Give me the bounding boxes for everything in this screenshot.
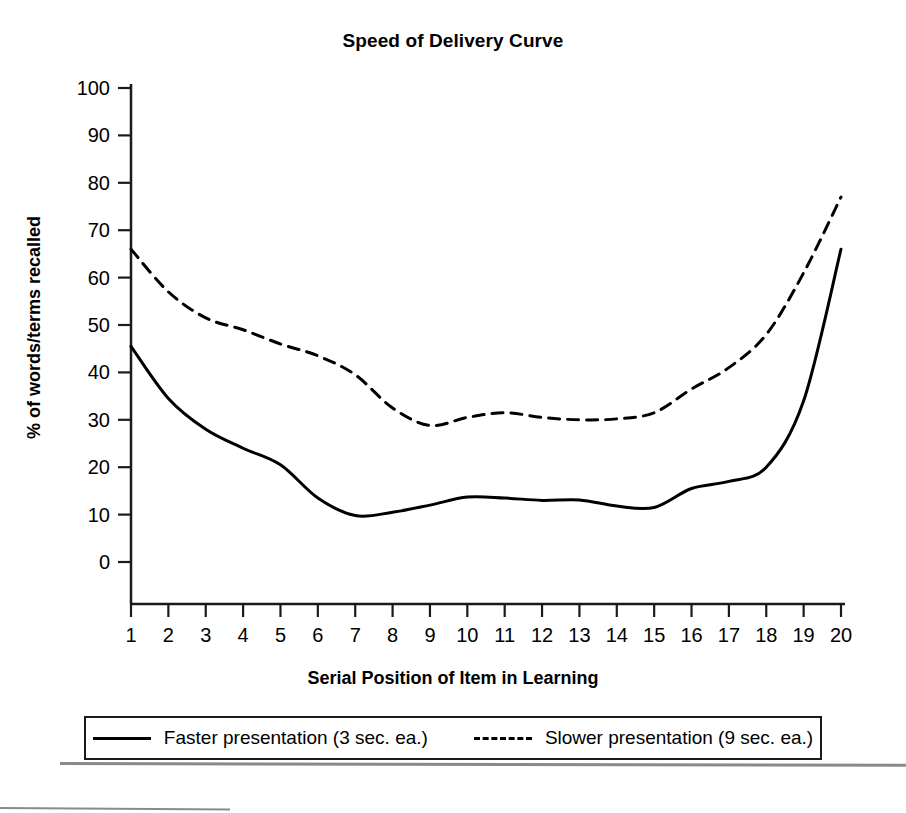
y-axis-title: % of words/terms recalled xyxy=(24,48,45,608)
y-axis-tick-label: 70 xyxy=(58,220,110,240)
y-axis-tick-labels: 0102030405060708090100 xyxy=(48,88,110,562)
y-axis-tick-label: 40 xyxy=(58,362,110,382)
y-axis-tick-label: 100 xyxy=(58,78,110,98)
axis-lines xyxy=(131,84,845,604)
x-axis-ticks xyxy=(131,604,841,617)
y-axis-tick-label: 60 xyxy=(58,268,110,288)
y-axis-tick-label: 50 xyxy=(58,315,110,335)
y-axis-tick-label: 80 xyxy=(58,173,110,193)
x-axis-tick-labels: 1234567891011121314151617181920 xyxy=(131,623,841,653)
y-axis-ticks xyxy=(118,88,131,562)
legend-label: Faster presentation (3 sec. ea.) xyxy=(164,728,428,748)
y-axis-tick-label: 30 xyxy=(58,410,110,430)
x-axis-tick-label: 20 xyxy=(819,623,863,647)
series-line-1 xyxy=(131,249,841,516)
chart-canvas xyxy=(0,0,906,813)
x-axis-title: Serial Position of Item in Learning xyxy=(0,668,906,689)
legend-dashed-line-icon xyxy=(474,737,532,740)
y-axis-tick-label: 20 xyxy=(58,457,110,477)
legend-entry-1: Faster presentation (3 sec. ea.) xyxy=(93,728,428,748)
legend-solid-line-icon xyxy=(93,737,151,740)
y-axis-tick-label: 0 xyxy=(58,552,110,572)
data-series-group xyxy=(131,197,841,516)
legend-entry-2: Slower presentation (9 sec. ea.) xyxy=(474,728,813,748)
chart-figure: Speed of Delivery Curve % of words/terms… xyxy=(0,0,906,813)
legend-label: Slower presentation (9 sec. ea.) xyxy=(545,728,813,748)
y-axis-tick-label: 90 xyxy=(58,125,110,145)
y-axis-tick-label: 10 xyxy=(58,505,110,525)
series-line-2 xyxy=(131,197,841,426)
chart-legend: Faster presentation (3 sec. ea.)Slower p… xyxy=(84,716,822,760)
